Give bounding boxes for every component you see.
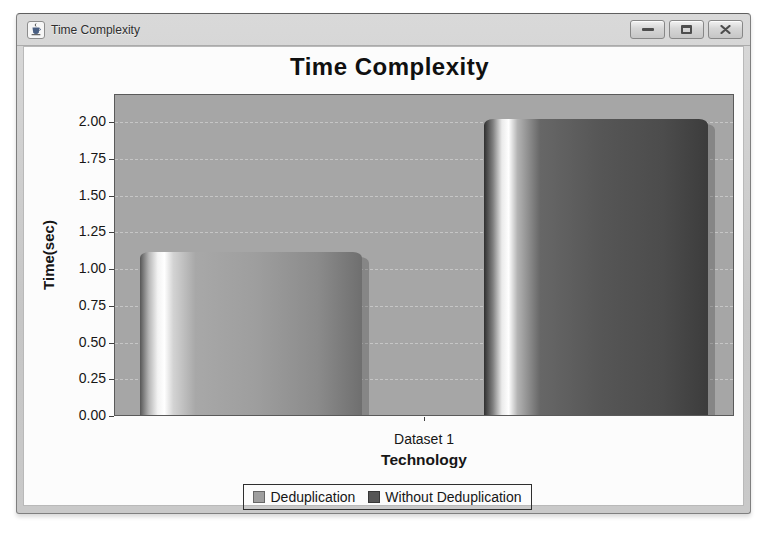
y-tick-mark: [109, 122, 114, 123]
y-tick-mark: [109, 232, 114, 233]
page: Time Complexity Time Complexity Time(sec…: [0, 0, 765, 543]
legend: DeduplicationWithout Deduplication: [24, 484, 743, 510]
y-tick-label: 1.00: [24, 260, 106, 276]
y-tick-mark: [109, 269, 114, 270]
window-title: Time Complexity: [51, 23, 630, 37]
y-tick-label: 1.25: [24, 223, 106, 239]
bar-without-deduplication: [484, 119, 708, 416]
minimize-icon: [642, 28, 654, 31]
java-coffee-cup-icon: [27, 21, 45, 39]
y-tick-mark: [109, 159, 114, 160]
close-button[interactable]: [708, 20, 743, 39]
plot-area: [114, 94, 734, 416]
y-tick-label: 0.00: [24, 407, 106, 423]
close-icon: [720, 25, 731, 34]
legend-box: DeduplicationWithout Deduplication: [243, 484, 531, 510]
legend-item-label: Without Deduplication: [385, 489, 521, 505]
x-tick-mark: [424, 417, 425, 421]
legend-swatch: [253, 491, 265, 503]
y-tick-mark: [109, 196, 114, 197]
maximize-button[interactable]: [669, 20, 704, 39]
legend-item: Without Deduplication: [368, 489, 521, 505]
legend-swatch: [368, 491, 380, 503]
chart-panel: Time Complexity Time(sec) Technology Ded…: [23, 46, 744, 506]
legend-item-label: Deduplication: [270, 489, 355, 505]
window-titlebar[interactable]: Time Complexity: [17, 14, 750, 46]
y-tick-mark: [109, 343, 114, 344]
chart-title: Time Complexity: [24, 53, 743, 81]
y-tick-mark: [109, 416, 114, 417]
bar-deduplication: [140, 252, 362, 416]
y-tick-label: 1.50: [24, 187, 106, 203]
y-tick-label: 2.00: [24, 113, 106, 129]
legend-item: Deduplication: [253, 489, 355, 505]
window-controls: [630, 20, 743, 39]
minimize-button[interactable]: [630, 20, 665, 39]
y-tick-mark: [109, 379, 114, 380]
x-axis-label: Technology: [114, 451, 734, 469]
app-window: Time Complexity Time Complexity Time(sec…: [16, 13, 751, 514]
y-tick-label: 0.75: [24, 297, 106, 313]
y-tick-label: 0.50: [24, 334, 106, 350]
x-category-label: Dataset 1: [114, 431, 734, 447]
y-tick-label: 0.25: [24, 370, 106, 386]
y-tick-mark: [109, 306, 114, 307]
maximize-icon: [681, 25, 692, 34]
y-tick-label: 1.75: [24, 150, 106, 166]
